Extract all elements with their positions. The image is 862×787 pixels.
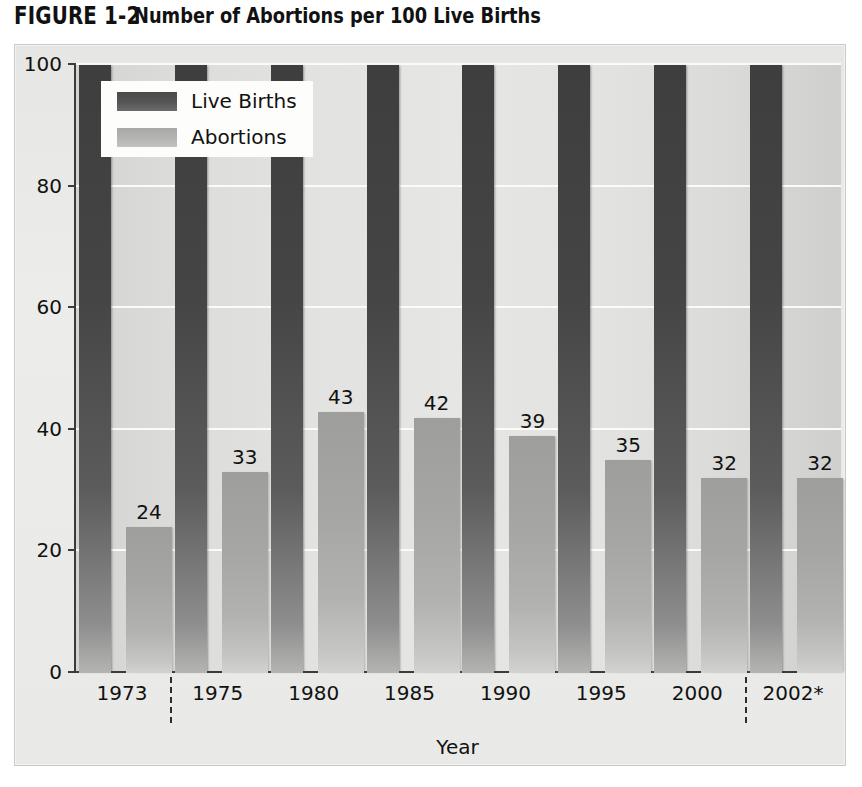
y-axis-line <box>74 63 76 673</box>
bar-value-label: 43 <box>328 385 353 409</box>
legend-label-abortions: Abortions <box>191 125 287 149</box>
legend-label-live-births: Live Births <box>191 89 297 113</box>
x-axis-tick-label: 1990 <box>480 681 531 705</box>
bar-abortions: 39 <box>509 436 555 673</box>
bar-value-label: 32 <box>807 451 832 475</box>
bar-abortions: 32 <box>701 478 747 673</box>
legend-item-abortions: Abortions <box>117 125 313 149</box>
x-axis-tick-label: 1995 <box>576 681 627 705</box>
bar-value-label: 24 <box>136 500 161 524</box>
x-axis-tick-label: 1975 <box>192 681 243 705</box>
y-axis-tick-label: 0 <box>49 660 62 684</box>
y-axis-tick-label: 80 <box>37 174 62 198</box>
y-axis-tick-label: 100 <box>24 52 62 76</box>
x-axis-tick-label: 2002* <box>763 681 824 705</box>
chart-panel: 020406080100 2433434239353232 1973197519… <box>14 44 846 766</box>
bar-live-births <box>654 65 686 673</box>
legend-item-live-births: Live Births <box>117 89 313 113</box>
figure-title: FIGURE 1-2 Number of Abortions per 100 L… <box>14 0 854 30</box>
bar-live-births <box>462 65 494 673</box>
figure-number: FIGURE 1-2 <box>14 1 140 30</box>
y-axis-tick-label: 40 <box>37 417 62 441</box>
y-axis-tick <box>68 185 74 187</box>
y-axis-tick <box>68 549 74 551</box>
live-births-swatch-icon <box>117 92 177 111</box>
x-axis-tick-label: 1980 <box>288 681 339 705</box>
bar-value-label: 35 <box>616 433 641 457</box>
bar-abortions: 42 <box>414 418 460 673</box>
chart-legend: Live Births Abortions <box>101 81 313 157</box>
x-axis-tick-label: 1985 <box>384 681 435 705</box>
bar-live-births <box>558 65 590 673</box>
y-axis-tick-label: 20 <box>37 538 62 562</box>
abortions-swatch-icon <box>117 128 177 147</box>
bar-abortions: 24 <box>126 527 172 673</box>
y-axis-tick-label: 60 <box>37 295 62 319</box>
x-axis-tick-label: 1973 <box>96 681 147 705</box>
y-axis-tick <box>68 63 74 65</box>
y-axis-tick <box>68 428 74 430</box>
bar-live-births <box>367 65 399 673</box>
bar-value-label: 32 <box>711 451 736 475</box>
bar-abortions: 43 <box>318 412 364 673</box>
x-axis-group-separator <box>170 677 174 723</box>
bar-abortions: 33 <box>222 472 268 673</box>
x-axis-tick-label: 2000 <box>672 681 723 705</box>
y-axis-tick <box>68 306 74 308</box>
x-axis: 19731975198019851990199520002002* Year <box>74 673 841 767</box>
x-axis-group-separator <box>745 677 749 723</box>
bar-value-label: 39 <box>520 409 545 433</box>
bar-abortions: 32 <box>797 478 843 673</box>
bar-value-label: 42 <box>424 391 449 415</box>
bar-abortions: 35 <box>605 460 651 673</box>
bar-value-label: 33 <box>232 445 257 469</box>
x-axis-title: Year <box>74 735 841 759</box>
bar-live-births <box>750 65 782 673</box>
figure-caption: Number of Abortions per 100 Live Births <box>134 3 541 28</box>
